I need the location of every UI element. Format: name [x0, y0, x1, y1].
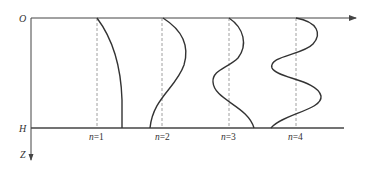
mode-2-label: n=2 — [155, 132, 170, 142]
bottom-label: H — [18, 123, 27, 134]
depth-axis-label: Z — [20, 149, 26, 160]
mode-4-label: n=4 — [288, 132, 303, 142]
mode-2-curve — [150, 18, 186, 128]
depth-axis-arrow-icon — [29, 154, 34, 161]
origin-label: O — [19, 13, 26, 24]
mode-1-label: n=1 — [89, 132, 104, 142]
mode-1-curve — [97, 18, 122, 128]
mode-3-curve — [213, 18, 254, 128]
mode-shapes-diagram: O H Z n=1 n=2 n=3 n=4 — [0, 0, 371, 170]
mode-3-label: n=3 — [221, 132, 236, 142]
